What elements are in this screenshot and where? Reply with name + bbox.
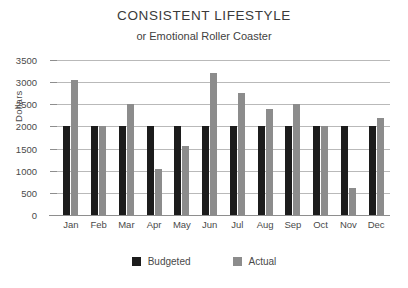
x-axis-tick-label: Dec: [359, 219, 393, 230]
legend-swatch-icon: [132, 257, 141, 266]
bar-budgeted: [91, 126, 98, 215]
bar-actual: [293, 104, 300, 215]
legend-item: Actual: [233, 256, 277, 267]
gridline: [57, 82, 390, 83]
bar-budgeted: [63, 126, 70, 215]
bar-actual: [377, 118, 384, 215]
bar-actual: [99, 126, 106, 215]
bar-actual: [238, 93, 245, 215]
legend-label: Actual: [249, 256, 277, 267]
y-axis-tick-mark: [50, 171, 57, 172]
chart-legend: BudgetedActual: [0, 256, 408, 267]
bar-budgeted: [119, 126, 126, 215]
y-axis-tick-mark: [50, 60, 57, 61]
bar-budgeted: [258, 126, 265, 215]
bar-budgeted: [341, 126, 348, 215]
plot-area: 0500100015002000250030003500 JanFebMarAp…: [57, 60, 390, 215]
chart-subtitle: or Emotional Roller Coaster: [0, 30, 408, 42]
bar-actual: [182, 146, 189, 215]
bar-actual: [266, 109, 273, 215]
bar-budgeted: [230, 126, 237, 215]
bar-actual: [155, 169, 162, 216]
y-axis-tick-label: 500: [0, 193, 37, 194]
y-axis-tick-label: 3500: [0, 60, 37, 61]
y-axis-tick-mark: [50, 126, 57, 127]
bar-budgeted: [369, 126, 376, 215]
bar-budgeted: [174, 126, 181, 215]
legend-item: Budgeted: [132, 256, 191, 267]
bar-actual: [321, 126, 328, 215]
y-axis-tick-label: 1000: [0, 171, 37, 172]
bar-actual: [210, 73, 217, 215]
y-axis-tick-mark: [50, 82, 57, 83]
y-axis-tick-label: 2000: [0, 126, 37, 127]
bar-budgeted: [202, 126, 209, 215]
y-axis-tick-label: 1500: [0, 149, 37, 150]
chart-container: CONSISTENT LIFESTYLE or Emotional Roller…: [0, 0, 408, 288]
bar-actual: [71, 80, 78, 215]
bar-budgeted: [285, 126, 292, 215]
y-axis-tick-label: 0: [0, 215, 37, 216]
gridline: [57, 60, 390, 61]
y-axis-tick-label: 3000: [0, 82, 37, 83]
gridline: [57, 104, 390, 105]
legend-swatch-icon: [233, 257, 242, 266]
bar-actual: [127, 104, 134, 215]
bar-actual: [349, 188, 356, 215]
bar-budgeted: [313, 126, 320, 215]
x-axis-line: [49, 215, 390, 216]
chart-title: CONSISTENT LIFESTYLE: [0, 8, 408, 23]
y-axis-tick-mark: [50, 104, 57, 105]
legend-label: Budgeted: [148, 256, 191, 267]
bar-budgeted: [147, 126, 154, 215]
y-axis-tick-label: 2500: [0, 104, 37, 105]
y-axis-tick-mark: [50, 149, 57, 150]
y-axis-tick-mark: [50, 193, 57, 194]
